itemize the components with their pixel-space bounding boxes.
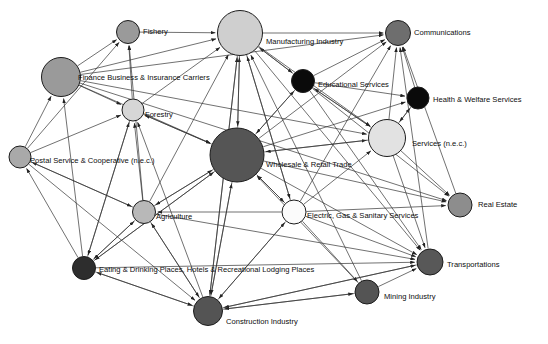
graph-node-construction[interactable] [194, 297, 223, 326]
graph-edge [393, 156, 425, 248]
graph-edge [211, 182, 232, 295]
graph-node-label-wholesale: Wholesale & Retail Trade [266, 160, 352, 169]
graph-node-finance[interactable] [42, 58, 81, 97]
graph-node-health[interactable] [407, 87, 429, 109]
graph-edge [225, 293, 355, 309]
graph-node-mining[interactable] [355, 280, 379, 304]
graph-edge [402, 47, 414, 87]
graph-node-eating[interactable] [73, 257, 96, 280]
graph-node-electric[interactable] [282, 200, 306, 224]
graph-node-education[interactable] [292, 70, 315, 93]
graph-node-label-construction: Construction Industry [226, 317, 298, 326]
graph-edge [27, 168, 78, 257]
graph-edge [95, 272, 192, 306]
graph-node-label-real_estate: Real Estate [478, 200, 517, 209]
graph-node-wholesale[interactable] [210, 128, 264, 182]
graph-node-label-education: Educational Services [318, 80, 389, 89]
graph-edge [258, 47, 292, 73]
graph-edge [78, 40, 117, 66]
graph-edge [129, 46, 143, 200]
graph-edge [29, 164, 195, 300]
graph-edge [389, 48, 396, 119]
graph-node-label-postal: Postal Service & Cooperative (n.e.c.) [30, 156, 155, 165]
graph-edge [219, 221, 286, 298]
graph-node-label-electric: Electric, Gas & Sanitary Services [307, 211, 419, 220]
graph-edge [266, 140, 368, 152]
graph-edge [28, 42, 120, 148]
graph-edge [80, 39, 216, 72]
graph-edge [25, 96, 51, 146]
graph-edge [94, 220, 135, 258]
graph-node-postal[interactable] [9, 146, 31, 168]
graph-node-agriculture[interactable] [133, 201, 156, 224]
network-diagram-root: FisheryManufacturing IndustryCommunicati… [0, 0, 548, 344]
graph-node-label-forestry: Forestry [145, 110, 173, 119]
graph-node-label-fishery: Fishery [143, 27, 168, 36]
graph-node-transportation[interactable] [417, 249, 443, 275]
graph-node-label-finance: Finance Business & Insurance Carriers [78, 73, 210, 82]
graph-node-label-services_nec: Services (n.e.c.) [412, 139, 467, 148]
graph-edge [403, 47, 456, 193]
graph-edge [238, 56, 240, 126]
graph-edge [31, 162, 132, 207]
graph-node-fishery[interactable] [117, 21, 140, 44]
nodes-layer [9, 11, 472, 326]
graph-node-communications[interactable] [386, 21, 411, 46]
graph-node-label-communications: Communications [414, 28, 471, 37]
graph-edge [306, 216, 416, 256]
graph-node-forestry[interactable] [122, 99, 144, 121]
graph-edge [256, 90, 295, 133]
graph-node-label-mining: Mining Industry [384, 292, 436, 301]
graph-node-label-agriculture: Agriculture [156, 212, 192, 221]
graph-node-label-transportation: Transportations [447, 260, 500, 269]
graph-edge [378, 269, 416, 287]
graph-node-label-eating: Eating & Drinking Places, Hotels & Recre… [99, 265, 314, 274]
graph-edge [31, 115, 121, 153]
graph-node-services_nec[interactable] [369, 120, 406, 157]
network-graph-canvas: FisheryManufacturing IndustryCommunicati… [0, 0, 548, 344]
graph-node-label-manufacturing: Manufacturing Industry [266, 37, 343, 46]
graph-node-real_estate[interactable] [448, 193, 472, 217]
graph-edge [151, 222, 199, 297]
graph-node-manufacturing[interactable] [218, 11, 263, 56]
graph-node-label-health: Health & Welfare Services [433, 95, 522, 104]
graph-edge [88, 121, 130, 255]
